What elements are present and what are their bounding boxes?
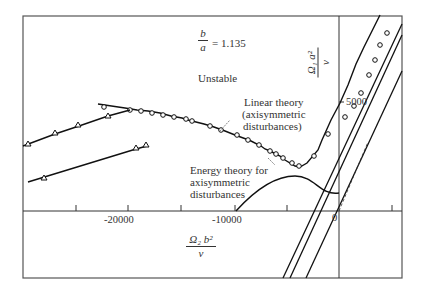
y-axis-label: Ω₁ a² ν bbox=[306, 48, 331, 78]
x-axis-label: Ω₂ b² ν bbox=[186, 234, 216, 259]
x-axis-label-denominator: ν bbox=[186, 248, 216, 259]
energy-theory-label-3: disturbances bbox=[190, 188, 245, 200]
linear-theory-label-2: (axisymmetric bbox=[242, 108, 306, 120]
ratio-denominator: a bbox=[198, 42, 208, 53]
unstable-label: Unstable bbox=[198, 72, 237, 84]
ratio-numerator: b bbox=[198, 28, 208, 39]
parallel-line-3 bbox=[283, 24, 402, 278]
ratio-value: = 1.135 bbox=[212, 37, 246, 49]
energy-theory-leader bbox=[268, 158, 275, 165]
y-axis-label-numerator: Ω₁ a² bbox=[306, 48, 317, 78]
ratio-fraction: b a bbox=[198, 28, 208, 53]
lower-triangle-curve bbox=[28, 146, 147, 182]
x-ticks bbox=[76, 205, 392, 211]
energy-theory-label-1: Energy theory for bbox=[190, 164, 268, 176]
linear-theory-label-3: disturbances) bbox=[243, 120, 302, 132]
x-axis-label-numerator: Ω₂ b² bbox=[186, 234, 216, 245]
upper-triangle-curve bbox=[23, 110, 130, 146]
energy-theory-label-2: axisymmetric bbox=[190, 176, 250, 188]
x-tick-label-neg10000: -10000 bbox=[212, 214, 242, 225]
x-tick-label-neg20000: -20000 bbox=[104, 214, 134, 225]
y-tick-label-5000: 5000 bbox=[346, 96, 367, 107]
linear-theory-label-1: Linear theory bbox=[244, 96, 304, 108]
y-axis-label-denominator: ν bbox=[320, 48, 331, 78]
x-tick-label-0: 0 bbox=[332, 212, 337, 223]
